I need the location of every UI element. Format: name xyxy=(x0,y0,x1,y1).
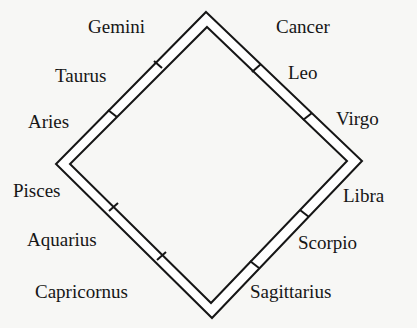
label-leo: Leo xyxy=(288,63,318,82)
label-aries: Aries xyxy=(28,112,69,131)
label-cancer: Cancer xyxy=(276,17,330,36)
label-gemini: Gemini xyxy=(88,17,145,36)
label-virgo: Virgo xyxy=(336,109,379,128)
label-taurus: Taurus xyxy=(55,66,106,85)
label-pisces: Pisces xyxy=(13,181,61,200)
outer-diamond-line xyxy=(56,12,362,318)
diamond-band xyxy=(0,0,417,328)
label-scorpio: Scorpio xyxy=(298,233,357,252)
label-aquarius: Aquarius xyxy=(27,230,97,249)
label-capricornus: Capricornus xyxy=(35,282,128,301)
label-libra: Libra xyxy=(343,186,384,205)
label-sagittarius: Sagittarius xyxy=(250,282,331,301)
zodiac-diamond-diagram: Gemini Cancer Taurus Leo Aries Virgo Pis… xyxy=(0,0,417,328)
band-fill xyxy=(56,12,362,318)
